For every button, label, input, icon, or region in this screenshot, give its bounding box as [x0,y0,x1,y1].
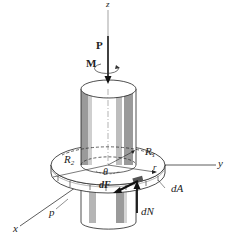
radius-r-label: r [153,163,157,172]
dF-label: dF [99,180,111,190]
diagram-drawing [0,0,229,239]
inner-radius-label: R1 [145,146,155,159]
y-axis-label: y [218,158,223,169]
moment-M-arrow [95,64,119,73]
lower-shaft-shade [89,190,96,223]
pressure-label: p [49,207,55,218]
dA-label: dA [171,183,183,194]
moment-M-label: M [86,58,96,69]
z-axis-label: z [106,0,110,9]
theta-label: θ [103,167,108,177]
collar-bearing-diagram: z P M y x R2 R1 θ r dF dA dN p [0,0,229,239]
outer-radius-label: R2 [64,154,74,167]
force-P-label: P [96,40,103,51]
lower-shaft-shade-2 [116,190,124,223]
upper-shaft-shade-right [116,89,122,165]
x-axis-label: x [13,223,18,234]
upper-shaft-shade-left [81,89,88,165]
dN-label: dN [141,206,154,217]
